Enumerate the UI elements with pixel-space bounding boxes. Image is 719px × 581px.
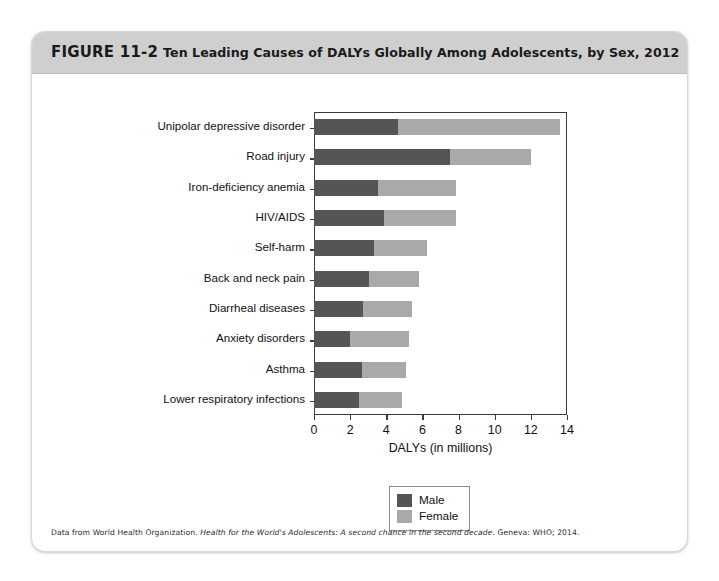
y-axis-category-label: Unipolar depressive disorder (95, 119, 305, 132)
bar-segment-female (350, 331, 409, 347)
x-tick (531, 415, 532, 420)
chart-region: Unipolar depressive disorderRoad injuryI… (32, 74, 688, 514)
x-tick (314, 415, 315, 420)
x-tick-label: 0 (311, 423, 318, 437)
figure-header-band: FIGURE 11-2Ten Leading Causes of DALYs G… (32, 32, 687, 74)
x-tick-label: 4 (383, 423, 390, 437)
bar-segment-male (314, 149, 450, 165)
y-axis-category-label: Back and neck pain (95, 271, 305, 284)
bar-segment-female (398, 119, 560, 135)
x-tick (495, 415, 496, 420)
bar-segment-male (314, 119, 398, 135)
source-suffix: . Geneva: WHO; 2014. (493, 528, 580, 537)
figure-card: FIGURE 11-2Ten Leading Causes of DALYs G… (31, 31, 688, 552)
bar-segment-male (314, 180, 378, 196)
legend-item-male: Male (397, 492, 458, 508)
x-tick-label: 8 (455, 423, 462, 437)
legend-swatch-male (397, 494, 412, 507)
figure-title: Ten Leading Causes of DALYs Globally Amo… (163, 45, 679, 60)
y-axis-category-label: Anxiety disorders (95, 331, 305, 344)
legend-label-male: Male (419, 493, 445, 507)
bar-row (314, 149, 567, 165)
bar-segment-female (363, 301, 413, 317)
bar-segment-female (374, 240, 427, 256)
chart-legend: Male Female (389, 486, 470, 531)
y-axis-category-label: Diarrheal diseases (95, 301, 305, 314)
x-tick-label: 6 (419, 423, 426, 437)
bar-row (314, 362, 567, 378)
y-axis-category-label: Road injury (95, 149, 305, 162)
bar-segment-female (384, 210, 455, 226)
bar-segment-male (314, 210, 384, 226)
x-tick (459, 415, 460, 420)
figure-header-text: FIGURE 11-2Ten Leading Causes of DALYs G… (51, 43, 679, 61)
bar-segment-male (314, 362, 362, 378)
x-tick-label: 12 (524, 423, 538, 437)
bar-row (314, 240, 567, 256)
bar-segment-male (314, 271, 369, 287)
bar-segment-female (378, 180, 456, 196)
bar-segment-female (359, 392, 401, 408)
legend-label-female: Female (419, 509, 458, 523)
x-tick-label: 14 (560, 423, 574, 437)
source-note: Data from World Health Organization. Hea… (51, 528, 661, 537)
y-axis-category-label: Iron-deficiency anemia (95, 180, 305, 193)
y-axis-category-label: Self-harm (95, 240, 305, 253)
bar-row (314, 210, 567, 226)
x-tick (567, 415, 568, 420)
bar-segment-female (450, 149, 531, 165)
bar-segment-male (314, 331, 350, 347)
bar-row (314, 331, 567, 347)
legend-item-female: Female (397, 508, 458, 524)
x-tick (386, 415, 387, 420)
x-tick (350, 415, 351, 420)
bar-segment-male (314, 392, 359, 408)
bar-segment-female (362, 362, 406, 378)
bar-row (314, 301, 567, 317)
y-axis-category-label: Lower respiratory infections (95, 392, 305, 405)
x-tick (422, 415, 423, 420)
legend-swatch-female (397, 510, 412, 523)
bar-row (314, 119, 567, 135)
bar-row (314, 392, 567, 408)
source-prefix: Data from World Health Organization. (51, 528, 200, 537)
bar-row (314, 180, 567, 196)
y-axis-category-label: Asthma (95, 362, 305, 375)
y-axis-category-label: HIV/AIDS (95, 210, 305, 223)
x-tick-label: 2 (347, 423, 354, 437)
bar-segment-male (314, 240, 374, 256)
bar-segment-female (369, 271, 419, 287)
figure-number: FIGURE 11-2 (51, 43, 158, 61)
bar-row (314, 271, 567, 287)
source-title-italic: Health for the World's Adolescents: A se… (200, 528, 492, 537)
x-axis-title: DALYs (in millions) (314, 441, 567, 455)
bar-segment-male (314, 301, 363, 317)
x-tick-label: 10 (488, 423, 502, 437)
